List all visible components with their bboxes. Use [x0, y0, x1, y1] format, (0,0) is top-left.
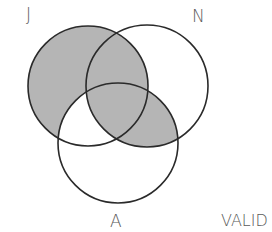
set-label-n: N [192, 8, 205, 25]
set-label-a: A [110, 213, 122, 230]
validity-verdict: VALID [221, 213, 268, 229]
set-label-j: J [26, 6, 31, 23]
venn-diagram [0, 0, 272, 232]
